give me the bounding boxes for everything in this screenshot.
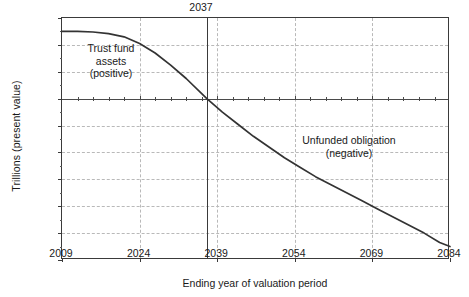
x-tick-label-2084: 2084: [419, 247, 469, 259]
x-tick-label-2039: 2039: [186, 247, 246, 259]
x-tick-label-2024: 2024: [109, 247, 169, 259]
annotation-line-2: (negative): [284, 147, 414, 160]
x-tick-label-2069: 2069: [341, 247, 401, 259]
annotation-line-1: Trust fund: [63, 42, 159, 55]
plot-area: $3 $2 $1 $0 –$1 –$2 –$3 –$4 –$5 –$6: [61, 17, 449, 259]
x-tick-label-2054: 2054: [264, 247, 324, 259]
y-axis-title: Trillions (present value): [10, 46, 22, 226]
chart-figure: Trillions (present value) Ending year of…: [0, 0, 469, 297]
annotation-trust-fund-assets: Trust fund assets (positive): [63, 42, 159, 80]
x-tick-label-2009: 2009: [31, 247, 91, 259]
annotation-unfunded-obligation: Unfunded obligation (negative): [284, 134, 414, 159]
marker-label-2037: 2037: [171, 1, 231, 13]
annotation-line-2: assets: [63, 55, 159, 68]
annotation-line-3: (positive): [63, 67, 159, 80]
x-axis-title: Ending year of valuation period: [61, 277, 449, 289]
annotation-line-1: Unfunded obligation: [284, 134, 414, 147]
